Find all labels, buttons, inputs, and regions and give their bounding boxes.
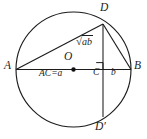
segment-label-b: b	[111, 68, 116, 78]
center-label-o: O	[64, 51, 72, 63]
point-label-a: A	[4, 60, 11, 72]
point-label-d: D	[100, 2, 108, 14]
point-label-b: B	[134, 60, 141, 72]
segment-label-ac-equals-a: AC=a	[39, 69, 62, 79]
point-label-c: C	[93, 68, 99, 78]
radicand-ab: ab	[82, 35, 93, 47]
geometry-figure: A B D D′ O C b AC=a √ab	[0, 0, 147, 139]
geometry-canvas	[0, 0, 147, 139]
center-point-dot	[71, 67, 75, 71]
point-label-d-prime: D′	[95, 121, 106, 133]
altitude-label-sqrt-ab: √ab	[76, 36, 93, 47]
